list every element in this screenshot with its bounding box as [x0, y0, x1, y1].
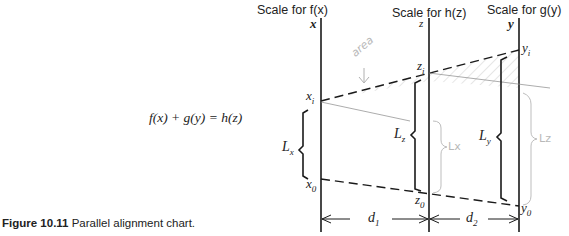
pencil-arrow: [359, 68, 369, 83]
figure-caption: Figure 10.11 Parallel alignment chart.: [2, 217, 195, 229]
header-scale-gy: Scale for g(y): [487, 3, 561, 17]
distance-label-d2: d2: [466, 210, 478, 228]
point-label-z0: z0: [415, 192, 425, 210]
handwritten-lz-note: Lz: [539, 132, 551, 145]
pencil-line-1: [321, 102, 410, 121]
header-scale-hz: Scale for h(z): [392, 6, 466, 20]
distance-label-d1: d1: [368, 210, 380, 228]
axis-label-x: x: [310, 16, 317, 32]
point-label-yi: yi: [522, 40, 530, 58]
length-label-ly: Ly: [479, 128, 491, 146]
figure-number: Figure 10.11: [2, 217, 68, 229]
figure-caption-text: Parallel alignment chart.: [72, 217, 195, 229]
lz-bracket: [411, 80, 421, 191]
handwritten-lx-note: Lx: [448, 140, 461, 153]
point-label-x0: x0: [306, 176, 316, 194]
axis-label-y: y: [508, 16, 514, 32]
point-label-y0: y0: [521, 200, 531, 218]
header-scale-fx: Scale for f(x): [257, 3, 328, 17]
length-label-lx: Lx: [282, 139, 294, 157]
pencil-lz-bracket: [523, 93, 537, 205]
equation: f(x) + g(y) = h(z): [149, 110, 242, 126]
point-label-zi: zi: [417, 58, 425, 76]
alignment-chart-drawing: [0, 0, 569, 236]
pencil-lx-bracket: [433, 121, 447, 193]
lx-bracket: [299, 110, 308, 179]
axis-label-z: z: [419, 17, 423, 29]
length-label-lz: Lz: [394, 126, 405, 144]
point-label-xi: xi: [306, 88, 314, 106]
